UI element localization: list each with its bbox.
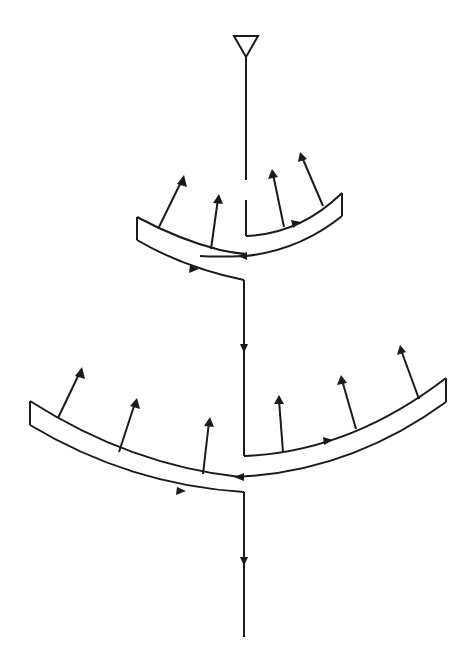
flow-arrow-down-icon — [240, 344, 248, 353]
arrow-up-icon — [337, 375, 347, 385]
flow-arrow-icon — [176, 487, 186, 495]
diagram-canvas — [0, 0, 470, 670]
flow-arrow-icon — [234, 473, 244, 481]
lower-radiation-arrows — [58, 345, 419, 474]
arrow-up-icon — [204, 417, 214, 427]
arrow-up-icon — [298, 152, 307, 162]
arrow-up-icon — [397, 345, 406, 355]
input-triangle-icon — [234, 36, 258, 57]
flow-arrow-down-icon — [240, 557, 248, 566]
arrow-up-icon — [130, 398, 140, 409]
lower-band — [30, 378, 446, 492]
arrow-up-icon — [268, 169, 278, 179]
arrow-up-icon — [274, 395, 284, 404]
